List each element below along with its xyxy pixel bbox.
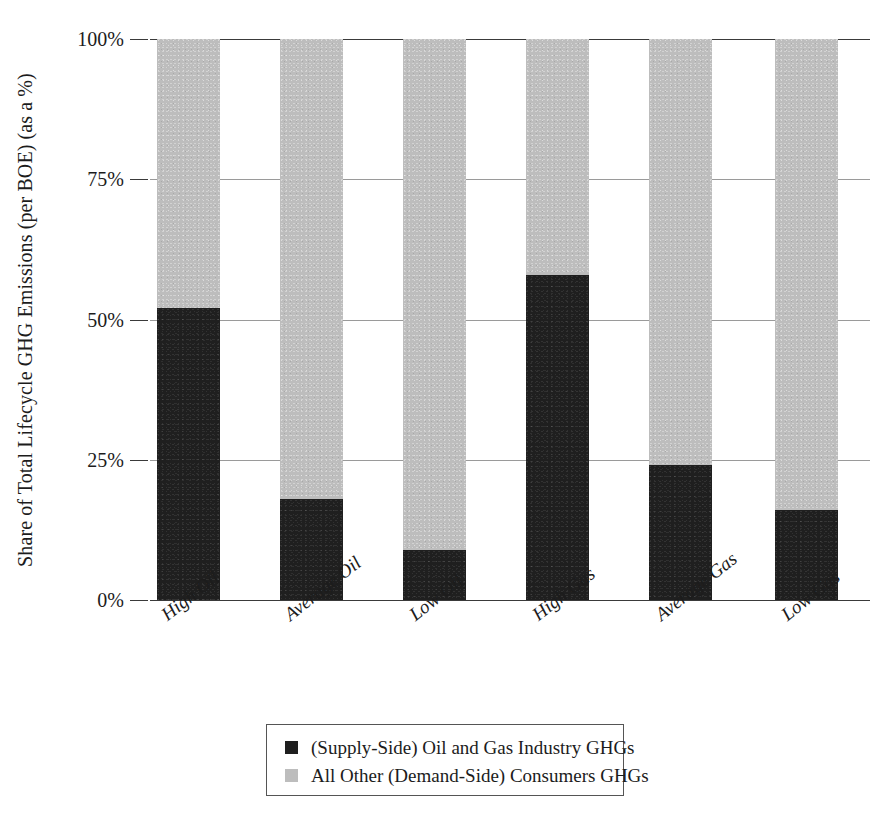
tickmark-50 — [130, 320, 148, 321]
legend: (Supply-Side) Oil and Gas Industry GHGs … — [266, 724, 624, 796]
legend-swatch-icon-supply — [285, 741, 298, 754]
tickmark-25 — [130, 460, 148, 461]
x-axis-line — [150, 600, 870, 601]
tickmark-100 — [130, 39, 148, 40]
y-tick-100: 100% — [150, 39, 151, 40]
y-axis-title: Share of Total Lifecycle GHG Emissions (… — [14, 20, 48, 620]
gridline-75 — [150, 179, 870, 180]
tickmark-75 — [130, 179, 148, 180]
plot-area: 100% 75% 50% 25% 0% — [150, 39, 870, 600]
gridline-25 — [150, 460, 870, 461]
legend-label-supply: (Supply-Side) Oil and Gas Industry GHGs — [311, 737, 635, 759]
y-tick-25: 25% — [150, 460, 151, 461]
y-tick-75: 75% — [150, 179, 151, 180]
legend-item-demand-side[interactable]: All Other (Demand-Side) Consumers GHGs — [285, 762, 623, 789]
legend-item-supply-side[interactable]: (Supply-Side) Oil and Gas Industry GHGs — [285, 734, 623, 761]
y-tick-label-50: 50% — [87, 308, 124, 331]
bar-segment-supply[interactable] — [526, 275, 589, 600]
tickmark-0 — [130, 600, 148, 601]
gridline-50 — [150, 320, 870, 321]
y-tick-50: 50% — [150, 320, 151, 321]
bar-segment-demand[interactable] — [157, 39, 220, 308]
legend-swatch-icon-demand — [285, 769, 298, 782]
chart-container: Share of Total Lifecycle GHG Emissions (… — [0, 0, 893, 822]
bar-segment-demand[interactable] — [280, 39, 343, 499]
y-tick-label-25: 25% — [87, 448, 124, 471]
y-tick-0: 0% — [150, 600, 151, 601]
y-tick-label-0: 0% — [97, 589, 124, 612]
bar-segment-demand[interactable] — [775, 39, 838, 510]
y-tick-label-100: 100% — [77, 28, 124, 51]
bar-segment-demand[interactable] — [403, 39, 466, 550]
bar-segment-demand[interactable] — [526, 39, 589, 275]
bar-segment-demand[interactable] — [649, 39, 712, 465]
gridline-100 — [150, 39, 870, 40]
legend-label-demand: All Other (Demand-Side) Consumers GHGs — [311, 765, 649, 787]
y-tick-label-75: 75% — [87, 168, 124, 191]
bar-segment-supply[interactable] — [157, 308, 220, 600]
